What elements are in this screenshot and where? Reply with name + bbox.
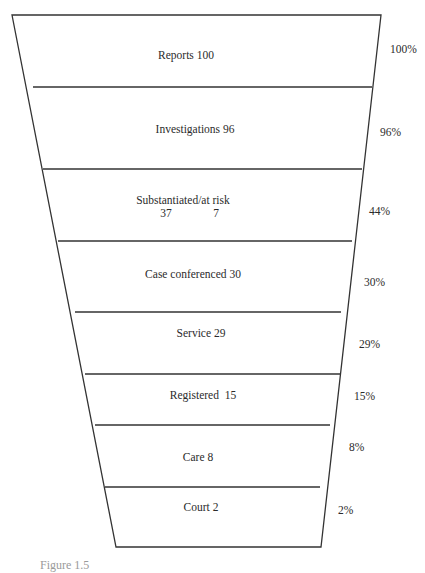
stage-label: Reports 100 xyxy=(158,50,214,62)
stage-percent: 8% xyxy=(349,442,364,454)
funnel-dividers xyxy=(33,87,372,487)
stage-label: Substantiated/at risk xyxy=(136,195,230,207)
stage-percent: 100% xyxy=(390,44,417,56)
stage-percent: 29% xyxy=(359,339,380,351)
figure-caption: Figure 1.5 xyxy=(40,558,89,573)
stage-sub-value: 37 xyxy=(160,208,172,220)
stage-percent: 30% xyxy=(364,277,385,289)
stage-percent: 44% xyxy=(369,206,390,218)
stage-label: Care 8 xyxy=(183,452,213,464)
stage-percent: 2% xyxy=(338,505,353,517)
funnel-outline xyxy=(12,15,381,547)
stage-label: Investigations 96 xyxy=(156,124,235,136)
stage-label: Service 29 xyxy=(177,328,226,340)
stage-label: Registered 15 xyxy=(170,390,236,402)
stage-sub-value: 7 xyxy=(213,208,219,220)
stage-percent: 96% xyxy=(380,127,401,139)
stage-label: Case conferenced 30 xyxy=(145,269,241,281)
stage-percent: 15% xyxy=(354,391,375,403)
stage-label: Court 2 xyxy=(184,502,219,514)
